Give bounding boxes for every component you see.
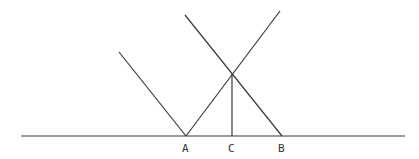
left-ray-to-a [119, 52, 186, 136]
label-c: C [228, 142, 235, 155]
label-b: B [278, 142, 285, 155]
label-a: A [182, 142, 189, 155]
geometry-diagram: A C B [0, 0, 419, 159]
ray-a-to-upper-right [186, 11, 280, 136]
